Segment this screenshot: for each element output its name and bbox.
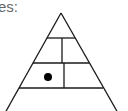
marker-dot [44,73,52,81]
pyramid-left-edge [5,13,61,111]
pyramid-right-edge [61,13,118,111]
pyramid-diagram [0,0,128,111]
